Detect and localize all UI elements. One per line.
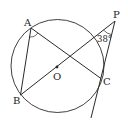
label-b: B xyxy=(13,95,20,106)
segment-ac xyxy=(31,28,101,79)
label-c: C xyxy=(103,76,111,87)
label-a: A xyxy=(23,17,32,28)
angle-arc-a xyxy=(30,33,38,37)
segment-ab xyxy=(21,28,32,95)
label-p: P xyxy=(113,9,120,20)
angle-label-p: 38° xyxy=(97,34,112,44)
center-point-o xyxy=(56,66,59,69)
geometry-diagram: A B O C P 38° xyxy=(0,0,128,131)
label-o: O xyxy=(53,71,61,82)
